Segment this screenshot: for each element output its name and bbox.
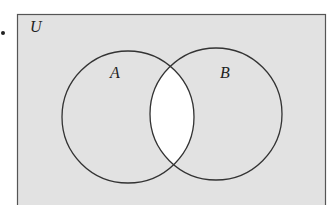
universe-label: U <box>30 18 42 36</box>
set-a-label: A <box>110 64 120 82</box>
set-b-label: B <box>220 64 230 82</box>
venn-diagram <box>0 0 328 205</box>
